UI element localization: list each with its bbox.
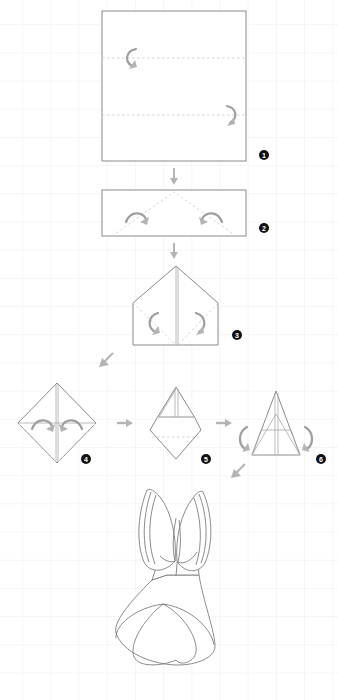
arrow-step3-to-step4 <box>99 353 113 367</box>
origami-diagram: 1 2 <box>0 0 338 700</box>
step-4-badge-label: 4 <box>84 456 88 463</box>
arrow-step1-to-step2 <box>170 168 178 185</box>
step-6-fold-arrow-right <box>302 427 312 452</box>
step-2-badge: 2 <box>259 223 269 233</box>
step-1-badge: 1 <box>259 150 269 160</box>
step-1-group: 1 <box>102 11 269 161</box>
final-tulip-figure <box>116 489 215 665</box>
step-3-badge-label: 3 <box>235 332 239 339</box>
origami-instruction-page: 1 2 <box>0 0 338 700</box>
step-3-house-shape <box>133 266 218 345</box>
step-5-group: 5 <box>150 387 211 464</box>
step-4-group: 4 <box>18 383 96 464</box>
step-2-group: 2 <box>102 190 269 236</box>
step-6-badge: 6 <box>316 454 326 464</box>
step-6-badge-label: 6 <box>319 456 323 463</box>
step-6-group: 6 <box>240 391 326 464</box>
arrow-step2-to-step3 <box>170 243 178 259</box>
step-4-badge: 4 <box>81 454 91 464</box>
step-5-kite-shape <box>150 387 201 459</box>
step-2-badge-label: 2 <box>262 225 266 232</box>
arrow-step4-to-step5 <box>117 419 133 427</box>
tulip-cone-base <box>116 575 215 665</box>
step-3-group: 3 <box>133 266 242 345</box>
step-5-badge: 5 <box>201 454 211 464</box>
step-1-square <box>102 11 246 161</box>
step-5-badge-label: 5 <box>204 456 208 463</box>
step-3-badge: 3 <box>232 330 242 340</box>
step-2-rectangle <box>102 190 246 236</box>
step-6-triangle-shape <box>252 391 300 455</box>
step-1-badge-label: 1 <box>262 152 266 159</box>
arrow-step6-to-final <box>231 464 245 478</box>
step-6-fold-arrow-left <box>240 427 250 452</box>
arrow-step5-to-step6 <box>216 419 232 427</box>
